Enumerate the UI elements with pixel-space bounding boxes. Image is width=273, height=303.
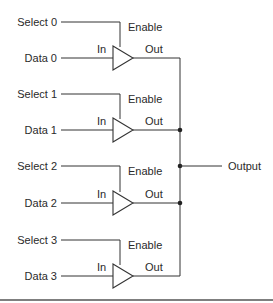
out-3-label: Out xyxy=(145,261,163,273)
select-1-wire xyxy=(61,94,120,119)
in-0-label: In xyxy=(97,43,106,55)
data-2-label: Data 2 xyxy=(25,197,57,209)
select-0-label: Select 0 xyxy=(17,16,57,28)
select-2-wire xyxy=(61,166,120,192)
buffer-0: Select 0 Enable Data 0 In Out xyxy=(17,16,180,70)
data-0-label: Data 0 xyxy=(25,52,57,64)
select-3-label: Select 3 xyxy=(17,234,57,246)
out-2-label: Out xyxy=(145,188,163,200)
buffer-3-triangle-icon xyxy=(113,264,133,288)
buffer-3: Select 3 Enable Data 3 In Out xyxy=(17,234,180,288)
select-0-wire xyxy=(61,22,120,47)
in-2-label: In xyxy=(97,188,106,200)
in-1-label: In xyxy=(97,115,106,127)
output-label: Output xyxy=(228,160,261,172)
buffer-2-triangle-icon xyxy=(113,191,133,215)
data-3-label: Data 3 xyxy=(25,270,57,282)
data-1-label: Data 1 xyxy=(25,124,57,136)
buffer-0-triangle-icon xyxy=(113,46,133,70)
select-1-label: Select 1 xyxy=(17,88,57,100)
select-3-wire xyxy=(61,240,120,265)
buffer-2: Select 2 Enable Data 2 In Out xyxy=(17,160,180,215)
out-1-label: Out xyxy=(145,115,163,127)
tristate-mux-diagram: Select 0 Enable Data 0 In Out Select 1 E… xyxy=(0,0,273,303)
select-2-label: Select 2 xyxy=(17,160,57,172)
enable-1-label: Enable xyxy=(128,93,162,105)
buffer-1-triangle-icon xyxy=(113,118,133,142)
junction-dot-1-icon xyxy=(178,128,183,133)
enable-3-label: Enable xyxy=(128,239,162,251)
buffer-1: Select 1 Enable Data 1 In Out xyxy=(17,88,180,142)
in-3-label: In xyxy=(97,261,106,273)
out-0-label: Out xyxy=(145,43,163,55)
junction-dot-2-icon xyxy=(178,201,183,206)
enable-0-label: Enable xyxy=(128,21,162,33)
enable-2-label: Enable xyxy=(128,165,162,177)
